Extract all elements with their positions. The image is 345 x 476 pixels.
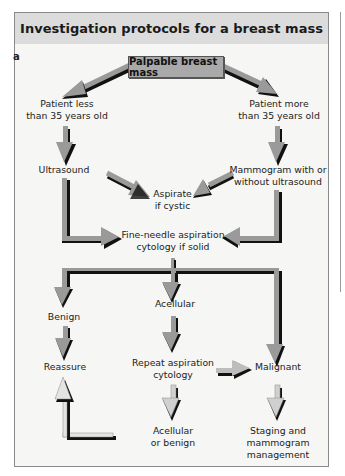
arrow-acellular-benign-to-reassure (55, 377, 116, 440)
arrow-mammogram-to-fna (222, 190, 282, 248)
arrow-young-to-ultrasound (56, 126, 76, 166)
node-aspirate-if-cystic: Aspirate if cystic (145, 188, 200, 212)
node-staging-management: Staging and mammogram management (245, 425, 311, 461)
node-mammogram: Mammogram with or without ultrasound (228, 164, 328, 188)
node-palpable-breast-mass: Palpable breast mass (128, 56, 224, 78)
arrow-benign-to-reassure (55, 326, 73, 361)
panel-label: a (13, 51, 20, 62)
arrow-old-to-mammogram (268, 126, 288, 166)
arrow-root-to-old (221, 65, 279, 97)
arrow-repeat-to-acellular-benign (162, 385, 181, 421)
node-patient-under-35: Patient less than 35 years old (24, 98, 110, 122)
node-reassure: Reassure (40, 361, 90, 373)
node-patient-over-35: Patient more than 35 years old (235, 98, 323, 122)
arrow-repeat-to-malignant (216, 360, 252, 379)
arrow-malignant-to-staging (267, 385, 286, 421)
arrow-fna-branches (54, 258, 285, 367)
node-benign: Benign (44, 311, 84, 323)
arrow-ultrasound-to-fna (62, 178, 122, 249)
node-acellular: Acellular (148, 298, 202, 310)
arrow-ultrasound-to-aspirate (107, 173, 150, 199)
node-acellular-or-benign: Acellular or benign (145, 425, 201, 449)
node-repeat-aspiration: Repeat aspiration cytology (128, 357, 218, 381)
node-malignant: Malignant (250, 361, 306, 373)
node-ultrasound: Ultrasound (34, 164, 94, 176)
node-fine-needle-aspiration: Fine-needle aspiration cytology if solid (118, 229, 228, 253)
arrow-acellular-to-repeat (162, 316, 181, 353)
arrow-root-to-young (62, 65, 131, 99)
